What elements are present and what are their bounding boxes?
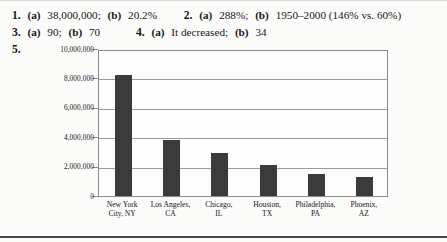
chart-gridline	[99, 109, 387, 110]
answer-part-label: (a)	[147, 26, 164, 38]
y-axis-tick-label: 0	[30, 193, 94, 201]
chart-bar	[211, 153, 228, 196]
answer-number-5: 5.	[12, 44, 21, 56]
y-axis-tick-label: 10,000,000	[30, 46, 94, 54]
answer-part-label: (a)	[24, 26, 41, 38]
answer-part-value: It decreased;	[167, 26, 228, 38]
answer-part-value: 90;	[43, 26, 61, 38]
answer-part-value: 34	[251, 26, 266, 38]
answer-line-2: 3. (a) 90; (b) 70 4. (a) It decreased; (…	[0, 25, 447, 40]
x-axis-tick-label: Phoenix,AZ	[333, 200, 395, 219]
answer-part-label: (a)	[195, 9, 212, 21]
population-bar-chart: 10,000,0008,000,0006,000,0004,000,0002,0…	[30, 44, 390, 232]
y-axis-tick-label: 4,000,000	[30, 134, 94, 142]
chart-gridline	[99, 79, 387, 80]
x-axis-tick-label-line: Phoenix,	[333, 200, 395, 209]
answer-part-value: 20.2%	[124, 9, 157, 21]
answer-part-label: (b)	[104, 9, 122, 21]
chart-plot-area	[98, 50, 388, 197]
answer-number: 4.	[136, 26, 145, 39]
chart-gridline	[99, 138, 387, 139]
answer-line-1: 1. (a) 38,000,000; (b) 20.2% 2. (a) 288%…	[0, 8, 447, 23]
chart-bar	[308, 174, 325, 196]
answer-item-3: 3. (a) 90; (b) 70	[12, 25, 100, 40]
chart-bar	[260, 165, 277, 196]
y-axis-tick-label: 6,000,000	[30, 104, 94, 112]
chart-bar	[356, 177, 373, 196]
answer-key-page: 1. (a) 38,000,000; (b) 20.2% 2. (a) 288%…	[0, 0, 447, 242]
answer-part-label: (b)	[231, 26, 249, 38]
answer-number: 1.	[12, 9, 21, 22]
chart-gridline	[99, 168, 387, 169]
answer-part-value: 38,000,000;	[43, 9, 100, 21]
x-axis-tick-label-line: AZ	[333, 209, 395, 218]
answer-part-value: 288%;	[215, 9, 248, 21]
top-divider	[0, 0, 447, 1]
answer-part-value: 70	[85, 26, 100, 38]
answer-item-2: 2. (a) 288%; (b) 1950–2000 (146% vs. 60%…	[184, 8, 401, 23]
answer-part-label: (b)	[251, 9, 269, 21]
y-axis-tick-label: 2,000,000	[30, 163, 94, 171]
answer-part-label: (a)	[24, 9, 41, 21]
bottom-divider	[0, 236, 447, 238]
answer-part-label: (b)	[64, 26, 82, 38]
answer-number: 2.	[184, 9, 193, 22]
answer-item-1: 1. (a) 38,000,000; (b) 20.2%	[12, 8, 157, 23]
answer-item-4: 4. (a) It decreased; (b) 34	[136, 25, 267, 40]
y-axis-tick-label: 8,000,000	[30, 75, 94, 83]
answer-number: 3.	[12, 26, 21, 39]
chart-bar	[163, 140, 180, 196]
answer-part-value: 1950–2000 (146% vs. 60%)	[272, 9, 402, 21]
chart-bar	[115, 75, 132, 196]
